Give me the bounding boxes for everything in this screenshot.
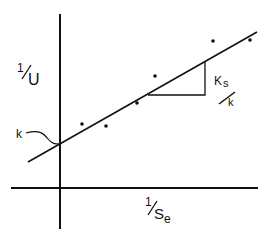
data-point	[153, 74, 157, 78]
y-axis-label: 1 U	[17, 61, 40, 88]
diagram-canvas: 1 U 1 S e k K s k	[0, 0, 270, 243]
intercept-label: k	[16, 127, 23, 141]
data-point	[135, 101, 139, 105]
data-point	[80, 122, 84, 126]
slope-label-numerator: K	[214, 74, 222, 88]
regression-line	[28, 32, 257, 162]
data-point	[104, 124, 108, 128]
x-axis-label: 1 S e	[145, 195, 171, 226]
slope-label: K s k	[214, 74, 235, 108]
slope-label-subscript: s	[223, 77, 229, 89]
x-label-subscript: e	[164, 212, 171, 226]
y-label-numerator: 1	[17, 61, 24, 75]
intercept-leader-curve	[26, 132, 60, 144]
slope-label-denominator: k	[228, 96, 234, 108]
x-label-numerator: 1	[145, 195, 152, 209]
y-label-denominator: U	[28, 71, 40, 88]
data-point	[248, 38, 252, 42]
data-point	[211, 39, 215, 43]
x-label-denominator: S	[154, 205, 164, 222]
